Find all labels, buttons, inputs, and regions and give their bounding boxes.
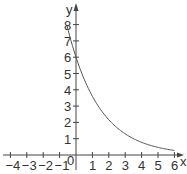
x-axis-label: x: [180, 154, 187, 169]
x-tick-label: −1: [55, 158, 70, 173]
y-tick-label: 8: [64, 18, 71, 33]
x-tick-label: 3: [122, 158, 129, 173]
x-tick-label: 1: [89, 158, 96, 173]
x-tick-label: −2: [38, 158, 53, 173]
y-tick-label: 2: [64, 115, 71, 130]
x-tick-label: 5: [155, 158, 162, 173]
x-tick-label: 2: [105, 158, 112, 173]
y-tick-label: 5: [64, 67, 71, 82]
x-tick-label: 6: [171, 158, 178, 173]
x-tick-label: −4: [5, 158, 20, 173]
exponential-decay-chart: xy0−4−3−2−112345612345678: [0, 0, 187, 174]
x-tick-label: 4: [138, 158, 145, 173]
x-tick-label: −3: [22, 158, 37, 173]
y-axis-arrow-icon: [74, 3, 79, 11]
y-tick-label: 4: [64, 83, 71, 98]
decay-curve: [67, 25, 174, 150]
y-tick-label: 1: [64, 132, 71, 147]
y-axis-label: y: [66, 2, 73, 17]
y-tick-label: 6: [64, 50, 71, 65]
y-tick-label: 3: [64, 99, 71, 114]
